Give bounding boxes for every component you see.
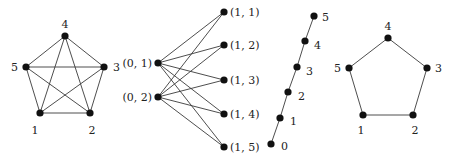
graph-edge — [305, 16, 314, 41]
graph-vertex — [154, 59, 161, 66]
graph-edge — [349, 68, 363, 115]
graph-edge — [288, 67, 297, 92]
graph-vertex — [301, 37, 308, 44]
graph-edge — [413, 68, 427, 115]
graph-vertex — [384, 34, 391, 41]
graph-edge — [271, 118, 280, 144]
vertex-label: (1, 3) — [230, 74, 260, 87]
vertex-label: (1, 5) — [230, 141, 260, 154]
graph-edge — [158, 80, 224, 97]
graph-vertex — [220, 41, 227, 48]
graph-vertex — [345, 64, 352, 71]
vertex-label: 4 — [314, 39, 321, 52]
graph-edge — [280, 92, 288, 118]
graph-edge — [297, 41, 305, 67]
graph-vertex — [220, 110, 227, 117]
graph-edge — [388, 38, 427, 68]
graph-edge — [349, 38, 388, 68]
vertex-label: (1, 4) — [230, 108, 260, 121]
graph-vertex — [220, 76, 227, 83]
graph-vertex — [154, 93, 161, 100]
bipartite-graph-k25: (0, 1)(0, 2)(1, 1)(1, 2)(1, 3)(1, 4)(1, … — [122, 6, 259, 154]
graph-vertex — [220, 143, 227, 150]
graph-edge — [158, 12, 224, 97]
vertex-label: 2 — [412, 124, 419, 137]
vertex-label: 2 — [89, 124, 96, 137]
graph-vertex — [359, 111, 366, 118]
vertex-label: 4 — [385, 20, 392, 33]
vertex-label: 5 — [334, 62, 341, 75]
graph-vertex — [100, 63, 107, 70]
vertex-label: (0, 2) — [122, 91, 152, 104]
vertex-label: 1 — [358, 124, 365, 137]
graph-vertex — [423, 64, 430, 71]
vertex-label: 4 — [62, 18, 69, 31]
graph-edge — [40, 36, 65, 113]
graph-vertex — [310, 12, 317, 19]
graph-vertex — [276, 114, 283, 121]
vertex-label: 1 — [32, 124, 39, 137]
path-graph: 012345 — [267, 11, 329, 153]
vertex-label: 5 — [322, 11, 329, 24]
vertex-label: (1, 1) — [230, 6, 260, 19]
graph-vertex — [22, 63, 29, 70]
graph-edge — [26, 67, 90, 113]
graph-vertex — [293, 63, 300, 70]
graph-vertex — [36, 109, 43, 116]
graph-edge — [158, 97, 224, 114]
complete-graph-k5: 12345 — [11, 18, 120, 137]
graph-edge — [65, 36, 104, 67]
graph-edge — [26, 67, 40, 113]
graph-edge — [158, 12, 224, 63]
graph-vertex — [284, 88, 291, 95]
graph-vertex — [409, 111, 416, 118]
vertex-label: (0, 1) — [122, 57, 152, 70]
vertex-label: 3 — [435, 62, 442, 75]
graph-edge — [26, 36, 65, 67]
vertex-label: 3 — [306, 65, 313, 78]
vertex-label: 2 — [298, 90, 305, 103]
vertex-label: 0 — [281, 140, 288, 153]
cycle-graph-c5: 12345 — [334, 20, 442, 137]
graph-vertex — [267, 140, 274, 147]
vertex-label: 5 — [11, 61, 18, 74]
graph-figure: 12345 (0, 1)(0, 2)(1, 1)(1, 2)(1, 3)(1, … — [0, 0, 452, 164]
vertex-label: (1, 2) — [230, 39, 260, 52]
vertex-label: 1 — [290, 115, 297, 128]
graph-vertex — [86, 109, 93, 116]
graph-edge — [90, 67, 104, 113]
vertex-label: 3 — [113, 61, 120, 74]
graph-edge — [65, 36, 90, 113]
graph-vertex — [61, 32, 68, 39]
graph-edge — [40, 67, 104, 113]
graph-vertex — [220, 8, 227, 15]
